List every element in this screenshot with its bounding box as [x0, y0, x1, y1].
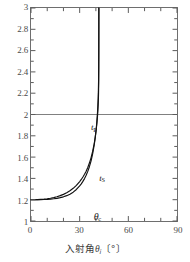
curve-t-p [31, 8, 99, 200]
x-axis-title-prefix: 入射角 [65, 243, 95, 254]
chart-figure: 3 2.8 2.6 2.4 2.2 2 1.8 1.6 1.4 1.2 1 tP… [0, 0, 190, 262]
x-axis-title: 入射角θi〔°〕 [0, 241, 190, 255]
y-tick-label: 1.8 [0, 132, 28, 141]
x-axis-tick-labels: 0 30 60 90 [0, 226, 190, 240]
x-axis-unit-close: 〕 [116, 243, 126, 254]
t-s-subscript: S [101, 176, 105, 183]
plot-svg [31, 8, 177, 221]
y-tick-label: 2.8 [0, 25, 28, 34]
plot-area: tP tS θc [30, 7, 178, 222]
x-tick-label: 90 [163, 226, 190, 235]
y-tick-label: 3 [0, 3, 28, 12]
x-tick-label: 60 [114, 226, 144, 235]
y-tick-label: 2.4 [0, 68, 28, 77]
t-s-curve-label: tS [99, 174, 105, 183]
y-tick-label: 1.4 [0, 175, 28, 184]
y-axis-tick-labels: 3 2.8 2.6 2.4 2.2 2 1.8 1.6 1.4 1.2 1 [0, 0, 28, 262]
curve-group [31, 8, 99, 200]
critical-angle-annotation: θc [94, 212, 102, 223]
t-p-curve-label: tP [91, 123, 97, 132]
y-tick-label: 2 [0, 111, 28, 120]
t-p-subscript: P [93, 126, 97, 133]
y-tick-label: 2.2 [0, 89, 28, 98]
x-axis-title-symbol: θ [95, 244, 100, 254]
y-tick-label: 1.6 [0, 154, 28, 163]
theta-subscript: c [98, 215, 101, 222]
x-tick-label: 0 [15, 226, 45, 235]
y-tick-label: 2.6 [0, 46, 28, 55]
y-tick-label: 1.2 [0, 197, 28, 206]
x-axis-unit-open: 〔 [101, 243, 111, 254]
curve-t-s [31, 8, 99, 200]
x-tick-label: 30 [64, 226, 94, 235]
